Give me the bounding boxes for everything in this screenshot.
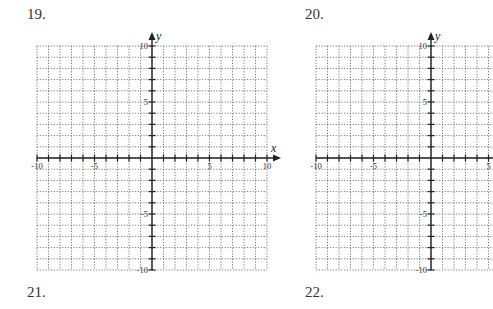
y-tick-label: 10 xyxy=(419,41,428,51)
y-axis-label: y xyxy=(434,29,441,43)
y-axis-arrow-icon xyxy=(428,32,435,40)
grid-svg: xy-10-5510105-5-10 xyxy=(0,0,493,309)
y-tick-label: -5 xyxy=(420,209,427,219)
x-tick-label: -5 xyxy=(370,161,377,171)
coordinate-grid-20: xy-10-5510105-5-10 xyxy=(0,0,493,309)
y-tick-label: 5 xyxy=(423,97,427,107)
x-tick-label: -10 xyxy=(310,161,321,171)
x-tick-label: 5 xyxy=(486,161,490,171)
y-tick-label: -10 xyxy=(416,265,427,275)
